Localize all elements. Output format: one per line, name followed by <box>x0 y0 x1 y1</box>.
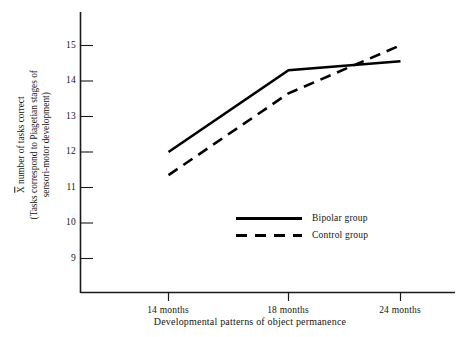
y-axis-title: X number of tasks correct(Tasks correspo… <box>15 45 53 245</box>
series-line-bipolar-group <box>169 61 401 152</box>
y-tick-label-10: 10 <box>54 217 76 227</box>
x-tick-label-14-months: 14 months <box>133 305 203 315</box>
y-axis-title-line2: (Tasks correspond to Piagetian stages of <box>29 70 39 219</box>
legend-label-control-group: Control group <box>312 230 368 240</box>
chart-figure: 15 14 13 12 11 10 9 14 months 18 months … <box>0 0 467 337</box>
legend-label-bipolar-group: Bipolar group <box>312 213 368 223</box>
x-tick-label-18-months: 18 months <box>253 305 323 315</box>
y-axis-title-line1-rest: number of tasks correct <box>16 96 26 186</box>
y-tick-label-15: 15 <box>54 40 76 50</box>
x-axis-ticks <box>169 293 401 302</box>
chart-plot-area <box>0 0 467 337</box>
y-tick-label-13: 13 <box>54 111 76 121</box>
y-tick-label-9: 9 <box>54 253 76 263</box>
y-tick-label-14: 14 <box>54 75 76 85</box>
y-tick-label-12: 12 <box>54 146 76 156</box>
y-axis-title-line3: sensori-motor development) <box>41 92 51 197</box>
y-tick-label-11: 11 <box>54 182 76 192</box>
x-axis-title: Developmental patterns of object permane… <box>60 316 440 327</box>
y-axis-ticks <box>81 46 94 259</box>
x-tick-label-24-months: 24 months <box>365 305 435 315</box>
y-axis-title-xbar: X <box>15 186 28 193</box>
